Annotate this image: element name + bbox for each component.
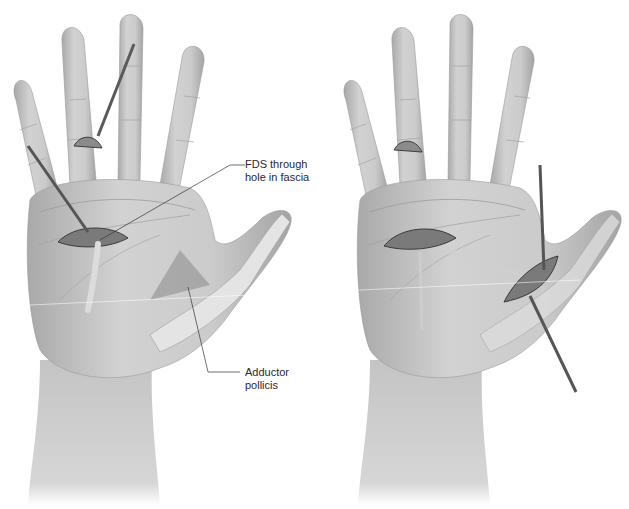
callout-fds-line1: FDS through [245, 158, 309, 171]
right-hand-illustration [344, 15, 621, 506]
tendon-path [420, 252, 422, 330]
surgical-illustration: FDS through hole in fascia Adductor poll… [0, 0, 629, 509]
callout-adductor-line1: Adductor [245, 366, 289, 379]
callout-fds: FDS through hole in fascia [245, 158, 309, 184]
callout-adductor-line2: pollicis [245, 379, 289, 392]
illustration-canvas [0, 0, 629, 509]
left-hand-illustration [14, 15, 291, 506]
callout-adductor: Adductor pollicis [245, 366, 289, 392]
callout-fds-line2: hole in fascia [245, 171, 309, 184]
